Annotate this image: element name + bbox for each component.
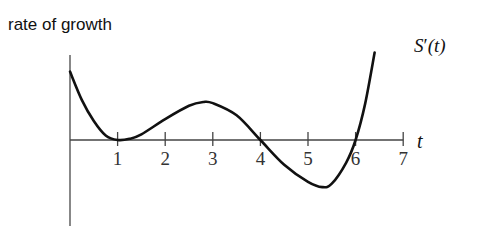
x-tick-label-3: 3 — [208, 148, 218, 169]
x-tick-label-1: 1 — [113, 148, 123, 169]
x-axis-label: t — [417, 130, 423, 152]
x-tick-labels: 1234567 — [113, 148, 408, 169]
x-tick-label-5: 5 — [303, 148, 313, 169]
series-label-main: S — [414, 35, 424, 56]
y-axis-label: rate of growth — [8, 15, 112, 34]
x-tick-label-2: 2 — [160, 148, 170, 169]
series-label-arg: (t) — [428, 35, 446, 57]
series-label: S′(t) — [414, 35, 446, 57]
x-tick-label-7: 7 — [398, 148, 408, 169]
x-tick-label-4: 4 — [256, 148, 266, 169]
chart: 1234567 rate of growth t S′(t) — [0, 0, 477, 235]
